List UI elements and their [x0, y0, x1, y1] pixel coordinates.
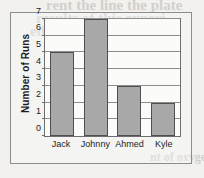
bar-johnny: [84, 19, 108, 136]
y-axis-title: Number of Runs: [20, 28, 31, 120]
y-axis-tick-label: 2: [36, 90, 41, 99]
bar-chart: Number of Runs 01234567 JackJohnnyAhmedK…: [10, 12, 192, 164]
bar-kyle: [151, 103, 175, 136]
bar-series: [45, 19, 180, 136]
x-axis-label-ahmed: Ahmed: [113, 139, 147, 149]
y-axis-tick-label: 5: [36, 39, 41, 48]
bar-slot: [113, 19, 147, 136]
bar-slot: [146, 19, 180, 136]
y-axis-tick-label: 1: [36, 106, 41, 115]
x-axis-label-kyle: Kyle: [147, 139, 181, 149]
plot-area: 01234567: [44, 18, 181, 137]
y-axis-tick-label: 6: [36, 23, 41, 32]
bar-slot: [45, 19, 79, 136]
x-axis-label-jack: Jack: [44, 139, 78, 149]
y-axis-tick-label: 0: [36, 123, 41, 132]
x-axis-tick-labels: JackJohnnyAhmedKyle: [44, 139, 181, 149]
bar-ahmed: [117, 86, 141, 136]
y-axis-tick-label: 4: [36, 56, 41, 65]
bar-slot: [79, 19, 113, 136]
x-axis-label-johnny: Johnny: [78, 139, 112, 149]
y-axis-tick-label: 3: [36, 73, 41, 82]
bar-jack: [50, 52, 74, 136]
y-axis-tick-label: 7: [36, 6, 41, 15]
